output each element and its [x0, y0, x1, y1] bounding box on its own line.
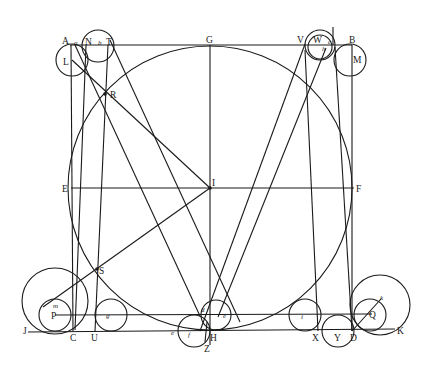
label-f: f — [188, 331, 191, 339]
label-H: H — [210, 333, 217, 343]
letter-m-construction-diagram: AaNbTGVWchBLMREIFSmPgdeikQJCUefHZXYDK — [0, 0, 427, 384]
label-R: R — [110, 90, 117, 100]
label-I: I — [212, 178, 215, 188]
label-D: D — [350, 333, 357, 343]
line-LI — [72, 60, 210, 188]
label-P: P — [51, 311, 56, 321]
label-F: F — [356, 184, 361, 194]
label-B: B — [349, 35, 355, 45]
label-e: e — [171, 329, 174, 337]
label-b: b — [98, 39, 102, 47]
label-h: h — [322, 45, 326, 53]
stem-c-D — [335, 47, 352, 331]
label-M: M — [353, 55, 362, 65]
stem-V-X — [305, 50, 318, 331]
label-e: e — [223, 312, 226, 320]
point-R — [103, 92, 107, 96]
label-X: X — [312, 333, 319, 343]
intersection-points — [95, 92, 212, 271]
label-C: C — [70, 333, 76, 343]
label-S: S — [99, 266, 104, 276]
label-Q: Q — [369, 310, 376, 320]
label-d: d — [201, 306, 205, 314]
label-G: G — [206, 35, 213, 45]
line-D-k — [352, 299, 381, 331]
label-W: W — [313, 35, 322, 45]
line-PQ — [55, 314, 372, 315]
label-T: T — [106, 37, 112, 47]
label-i: i — [301, 313, 303, 321]
diag-a-d — [75, 45, 200, 316]
label-a: a — [74, 39, 78, 47]
label-J: J — [23, 326, 27, 336]
label-V: V — [297, 35, 304, 45]
line-I-m — [43, 188, 210, 307]
label-m: m — [53, 302, 58, 310]
label-k: k — [380, 294, 384, 302]
label-L: L — [63, 57, 69, 67]
diag-h-e — [218, 48, 326, 317]
diag-T-e — [110, 40, 240, 322]
label-E: E — [62, 184, 68, 194]
label-g: g — [106, 312, 110, 320]
label-A: A — [62, 36, 69, 46]
label-Y: Y — [334, 333, 341, 343]
circle-P-large — [22, 268, 88, 334]
label-N: N — [85, 37, 92, 47]
label-Z: Z — [204, 344, 210, 354]
label-U: U — [91, 333, 98, 343]
label-K: K — [397, 326, 404, 336]
